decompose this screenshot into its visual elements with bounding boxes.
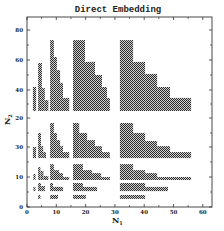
staircase-region (50, 40, 69, 111)
region-step (120, 40, 133, 111)
region-step (102, 87, 107, 111)
region-step (63, 152, 69, 158)
region-step (41, 171, 44, 180)
region-step (41, 186, 45, 191)
region-step (38, 195, 40, 199)
region-step (38, 63, 42, 111)
region-step (50, 183, 53, 191)
region-step (73, 183, 83, 191)
region-step (120, 164, 133, 180)
y-tick-label: 60 (15, 57, 23, 63)
x-tick-label: 20 (82, 209, 90, 215)
region-step (57, 140, 60, 158)
staircase-region (38, 63, 48, 111)
region-step (133, 62, 145, 111)
region-step (107, 98, 110, 111)
y-tick-label: 20 (15, 115, 23, 121)
region-step (145, 141, 157, 158)
y-tick-label: 0 (19, 204, 23, 210)
chart-title: Direct Embedding (75, 5, 161, 15)
staircase-region (73, 183, 97, 191)
region-step (50, 123, 54, 158)
region-step (145, 173, 157, 180)
region-step (101, 177, 110, 180)
region-step (33, 174, 35, 180)
region-step (43, 176, 48, 180)
region-step (170, 152, 191, 158)
region-step (50, 195, 58, 199)
region-step (73, 40, 85, 111)
x-tick-label: 60 (199, 209, 207, 215)
region-step (43, 152, 46, 158)
staircase-region (120, 195, 145, 199)
region-step (133, 133, 145, 158)
region-step (83, 170, 92, 180)
y-tick-label: 10 (15, 174, 23, 180)
staircase-region (33, 174, 35, 180)
y-axis-label: N2 (2, 114, 13, 125)
staircase-region (33, 187, 35, 191)
x-tick-label: 50 (170, 209, 178, 215)
region-step (33, 147, 36, 158)
staircase-region (50, 183, 63, 191)
region-step (73, 195, 86, 199)
region-step (41, 146, 43, 158)
staircase-region (120, 40, 191, 111)
y-tick-label: 40 (15, 87, 23, 93)
staircase-region (38, 133, 46, 158)
region-step (42, 88, 45, 111)
x-axis-label: N1 (112, 215, 123, 226)
x-tick-label: 10 (52, 209, 60, 215)
region-step (38, 183, 41, 191)
region-step (60, 146, 63, 158)
staircase-region (73, 164, 110, 180)
x-tick-label: 0 (25, 209, 29, 215)
y-axis-ticks: 8060402030100 (15, 27, 212, 210)
region-step (102, 152, 110, 158)
feasible-regions (33, 40, 191, 199)
region-step (170, 98, 191, 111)
region-step (120, 183, 145, 191)
staircase-region (120, 164, 191, 180)
staircase-region (120, 123, 191, 158)
staircase-region (73, 123, 110, 158)
region-step (33, 87, 36, 111)
region-step (157, 177, 191, 180)
region-step (50, 40, 54, 111)
region-step (45, 100, 49, 111)
staircase-region (50, 164, 69, 180)
staircase-region (33, 87, 36, 111)
region-step (157, 146, 170, 158)
region-step (73, 164, 83, 180)
region-step (57, 70, 60, 111)
x-tick-label: 40 (140, 209, 148, 215)
region-step (120, 123, 133, 158)
region-step (145, 74, 157, 111)
region-step (53, 187, 63, 191)
region-step (38, 167, 40, 180)
region-step (83, 187, 97, 191)
region-step (157, 87, 170, 111)
region-step (33, 187, 35, 191)
region-step (50, 164, 54, 180)
staircase-region (73, 195, 86, 199)
region-step (120, 195, 145, 199)
staircase-region (50, 123, 69, 158)
region-step (133, 170, 145, 180)
staircase-region (38, 183, 45, 191)
region-step (54, 170, 59, 180)
region-step (92, 173, 101, 180)
y-tick-label: 80 (15, 27, 23, 33)
region-step (73, 123, 79, 158)
region-step (85, 62, 95, 111)
region-step (38, 133, 41, 158)
region-step (60, 83, 63, 111)
region-step (54, 57, 57, 111)
region-step (63, 98, 69, 111)
region-step (145, 187, 168, 191)
region-step (59, 173, 63, 180)
y-tick-label: 30 (15, 144, 23, 150)
region-step (79, 133, 87, 158)
staircase-region (38, 167, 48, 180)
staircase-region (73, 40, 110, 111)
